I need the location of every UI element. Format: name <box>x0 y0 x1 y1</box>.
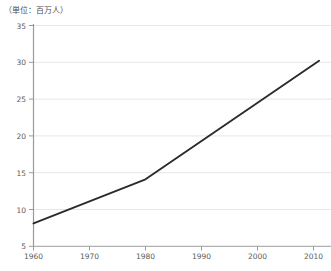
x-tick-label-1970: 1970 <box>80 252 99 261</box>
y-tick-label-10: 10 <box>16 206 26 215</box>
x-tick-label-2010: 2010 <box>304 252 323 261</box>
x-axis-ticks: 1960 1970 1980 1990 2000 2010 <box>24 246 323 261</box>
y-tick-label-15: 15 <box>16 169 26 178</box>
y-tick-label-30: 30 <box>16 58 26 67</box>
y-tick-label-5: 5 <box>21 242 26 251</box>
x-tick-label-1960: 1960 <box>24 252 43 261</box>
gridlines <box>33 26 331 210</box>
y-tick-label-20: 20 <box>16 132 26 141</box>
data-series-line <box>34 61 320 224</box>
line-chart: （単位：百万人） 35 30 25 20 15 10 <box>0 0 331 271</box>
y-tick-label-35: 35 <box>16 22 26 31</box>
chart-plot-area: 35 30 25 20 15 10 5 1960 1970 1980 1990 … <box>0 0 331 271</box>
y-axis-ticks: 35 30 25 20 15 10 5 <box>16 22 33 252</box>
x-tick-label-2000: 2000 <box>248 252 267 261</box>
y-tick-label-25: 25 <box>16 95 26 104</box>
axis-lines <box>33 24 331 247</box>
x-tick-label-1990: 1990 <box>192 252 211 261</box>
x-tick-label-1980: 1980 <box>136 252 155 261</box>
